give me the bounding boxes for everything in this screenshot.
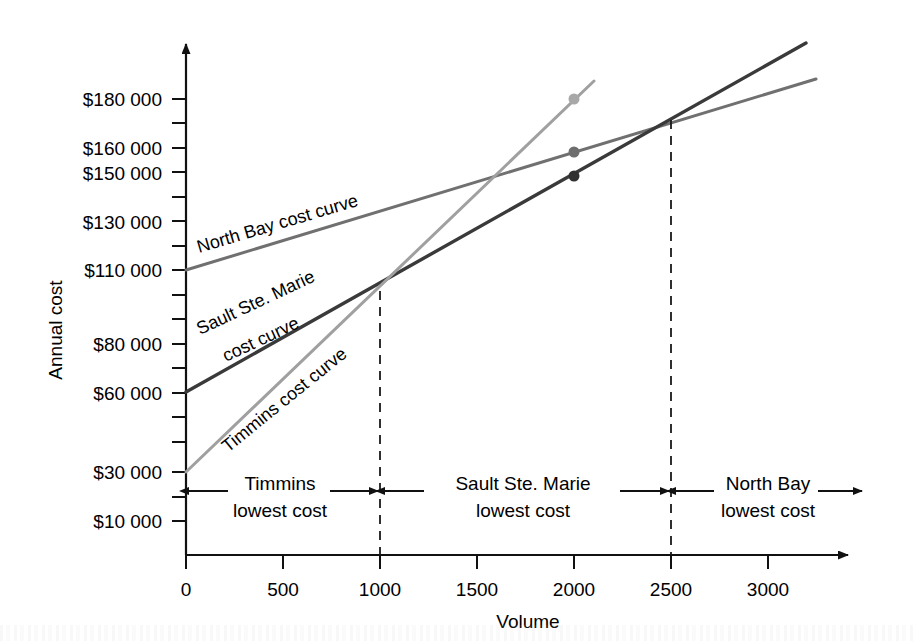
x-tick-label-0: 0 xyxy=(181,579,192,600)
chart-canvas: $180 000 $160 000 $150 000 $130 000 $110… xyxy=(0,0,914,641)
data-point-markers xyxy=(569,94,580,182)
x-axis-title: Volume xyxy=(496,611,559,632)
y-tick-label-130000: $130 000 xyxy=(83,212,162,233)
region-label-sault-line2: lowest cost xyxy=(476,500,571,521)
y-tick-label-150000: $150 000 xyxy=(83,163,162,184)
x-tick-label-500: 500 xyxy=(267,579,299,600)
x-tick-label-2500: 2500 xyxy=(650,579,692,600)
timmins-cost-curve xyxy=(186,81,594,472)
y-tick-label-180000: $180 000 xyxy=(83,89,162,110)
x-tick-label-1500: 1500 xyxy=(456,579,498,600)
y-tick-label-160000: $160 000 xyxy=(83,138,162,159)
x-tick-labels: 0 500 1000 1500 2000 2500 3000 xyxy=(181,579,789,600)
region-label-timmins-line1: Timmins xyxy=(244,473,315,494)
x-tick-label-3000: 3000 xyxy=(747,579,789,600)
y-tick-label-80000: $80 000 xyxy=(93,334,162,355)
y-tick-label-60000: $60 000 xyxy=(93,383,162,404)
y-tick-label-110000: $110 000 xyxy=(84,260,162,281)
marker-north-bay-2000 xyxy=(569,147,580,158)
north-bay-cost-curve xyxy=(186,79,816,270)
y-tick-label-30000: $30 000 xyxy=(93,462,162,483)
x-tick-label-2000: 2000 xyxy=(553,579,595,600)
region-labels-group: Timmins lowest cost Sault Ste. Marie low… xyxy=(233,473,816,521)
y-tick-marks xyxy=(172,99,186,521)
region-label-northbay-line1: North Bay xyxy=(726,473,811,494)
y-tick-labels: $180 000 $160 000 $150 000 $130 000 $110… xyxy=(83,89,162,532)
region-label-timmins-line2: lowest cost xyxy=(233,500,328,521)
y-axis-title: Annual cost xyxy=(45,280,66,380)
marker-timmins-2000 xyxy=(569,94,580,105)
marker-sault-ste-marie-2000 xyxy=(569,171,580,182)
region-label-sault-line1: Sault Ste. Marie xyxy=(455,473,590,494)
x-tick-marks xyxy=(186,555,768,569)
region-label-northbay-line2: lowest cost xyxy=(721,500,816,521)
y-tick-label-10000: $10 000 xyxy=(93,511,162,532)
cost-curve-figure: $180 000 $160 000 $150 000 $130 000 $110… xyxy=(0,0,914,641)
x-tick-label-1000: 1000 xyxy=(359,579,401,600)
